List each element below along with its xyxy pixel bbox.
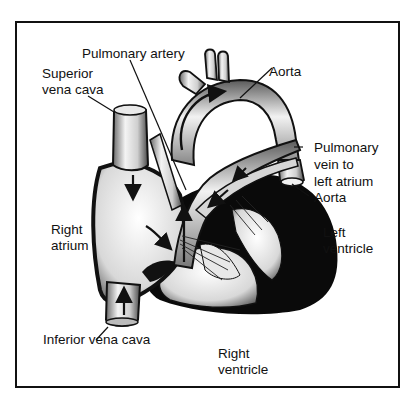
- label-right-atrium-line1: Right: [51, 222, 83, 238]
- label-pulmonary-vein-line2: vein to: [314, 157, 354, 173]
- label-aorta-right: Aorta: [314, 190, 346, 206]
- label-aorta-top: Aorta: [269, 64, 301, 80]
- label-pulmonary-artery: Pulmonary artery: [82, 46, 185, 62]
- label-inferior-vena-cava: Inferior vena cava: [43, 332, 150, 348]
- label-superior-vena-cava-line2: vena cava: [42, 82, 104, 98]
- label-pulmonary-vein-line3: left atrium: [314, 174, 373, 190]
- label-superior-vena-cava-line1: Superior: [42, 66, 93, 82]
- label-right-atrium-line2: atrium: [51, 238, 89, 254]
- label-pulmonary-vein-line1: Pulmonary: [314, 140, 379, 156]
- label-left-ventricle-line2: ventricle: [323, 241, 373, 257]
- label-right-ventricle-line2: ventricle: [218, 362, 268, 378]
- label-left-ventricle-line1: Left: [323, 225, 346, 241]
- superior-vena-cava: [113, 105, 148, 170]
- label-right-ventricle-line1: Right: [218, 346, 250, 362]
